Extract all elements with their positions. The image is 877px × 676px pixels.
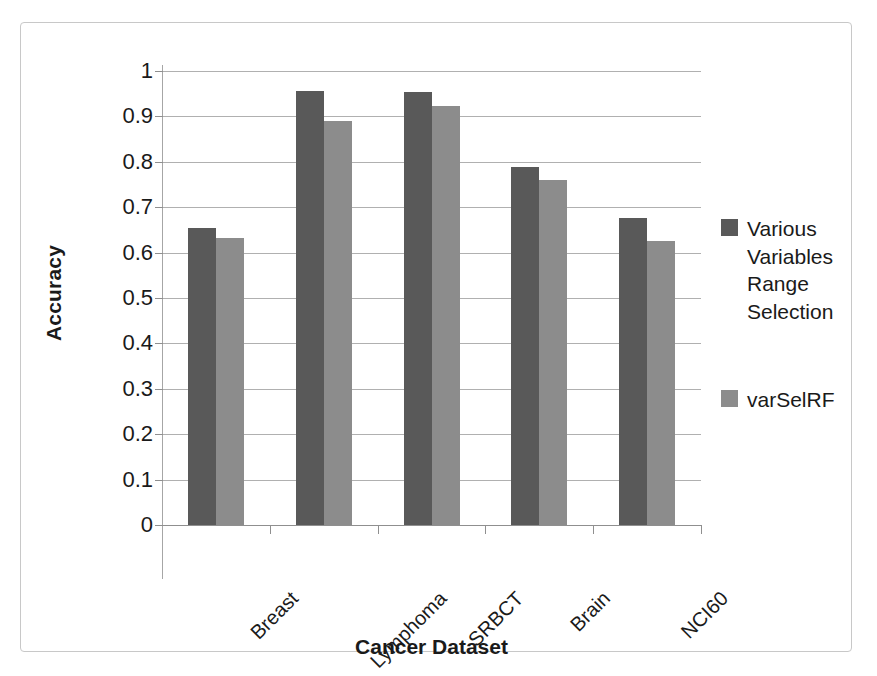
chart-legend: Various Variables Range SelectionvarSelR… — [721, 215, 877, 474]
y-axis-tick — [155, 389, 163, 390]
legend-swatch-icon — [721, 219, 738, 236]
y-axis-tick-label: 1 — [93, 58, 153, 84]
y-axis-title-label: Accuracy — [42, 245, 66, 341]
bar-group — [511, 71, 567, 525]
bar-group — [619, 71, 675, 525]
y-axis-tick-label: 0.7 — [93, 194, 153, 220]
y-axis-line — [162, 65, 163, 579]
x-axis-line — [156, 525, 701, 526]
legend-label: Various Variables Range Selection — [747, 215, 877, 326]
y-axis-tick — [155, 71, 163, 72]
bar — [188, 228, 216, 525]
bar — [296, 91, 324, 525]
bar — [324, 121, 352, 526]
legend-swatch-icon — [721, 390, 738, 407]
bar — [432, 106, 460, 525]
bar-group — [188, 71, 244, 525]
bar — [539, 180, 567, 525]
y-axis-tick-labels: 00.10.20.30.40.50.60.70.80.91 — [85, 71, 153, 525]
y-axis-tick — [155, 116, 163, 117]
bar — [404, 92, 432, 525]
bar — [511, 167, 539, 525]
y-axis-tick — [155, 480, 163, 481]
y-axis-tick-label: 0.5 — [93, 285, 153, 311]
plot-area — [162, 71, 701, 525]
x-axis-tick-label: Brain — [566, 587, 615, 636]
x-axis-title: Cancer Dataset — [162, 635, 701, 659]
x-axis-tick — [270, 525, 271, 534]
bar-group — [404, 71, 460, 525]
legend-entry: Various Variables Range Selection — [721, 215, 877, 326]
y-axis-tick — [155, 434, 163, 435]
y-axis-tick-label: 0.8 — [93, 149, 153, 175]
bar — [619, 218, 647, 525]
y-axis-tick-label: 0.3 — [93, 376, 153, 402]
y-axis-title: Accuracy — [39, 198, 69, 388]
chart-frame: Accuracy 00.10.20.30.40.50.60.70.80.91 B… — [20, 22, 852, 652]
y-axis-tick — [155, 525, 163, 526]
x-axis-tick — [378, 525, 379, 534]
y-axis-tick-label: 0.1 — [93, 467, 153, 493]
bar — [647, 241, 675, 525]
y-axis-tick-label: 0.2 — [93, 421, 153, 447]
x-axis-tick — [701, 525, 702, 534]
y-axis-tick — [155, 162, 163, 163]
y-axis-tick-label: 0.4 — [93, 330, 153, 356]
y-axis-tick — [155, 253, 163, 254]
legend-entry: varSelRF — [721, 386, 877, 414]
y-axis-tick — [155, 207, 163, 208]
y-axis-tick-label: 0 — [93, 512, 153, 538]
x-axis-tick-label: Lymphoma — [365, 587, 451, 673]
bar — [216, 238, 244, 525]
y-axis-tick-label: 0.9 — [93, 103, 153, 129]
y-axis-tick — [155, 343, 163, 344]
x-axis-tick — [485, 525, 486, 534]
y-axis-tick-label: 0.6 — [93, 240, 153, 266]
bar-group — [296, 71, 352, 525]
legend-label: varSelRF — [747, 386, 835, 414]
x-axis-tick — [593, 525, 594, 534]
y-axis-tick — [155, 298, 163, 299]
